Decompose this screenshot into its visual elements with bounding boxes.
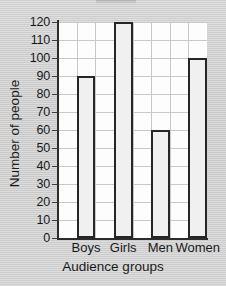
y-axis-tick <box>52 130 58 131</box>
y-axis-tick <box>52 220 58 221</box>
y-axis-tick <box>52 58 58 59</box>
y-axis-tick <box>52 184 58 185</box>
y-axis-tick <box>52 76 58 77</box>
cropped-title-sliver <box>96 0 136 4</box>
y-axis-tick <box>52 238 58 239</box>
y-axis-tick-label: 100 <box>22 52 50 65</box>
y-axis-tick-label: 20 <box>22 196 50 209</box>
bar-chart-figure: 0102030405060708090100110120 Number of p… <box>0 0 226 286</box>
y-axis-tick-label: 10 <box>22 214 50 227</box>
gridline-vertical <box>170 22 171 238</box>
x-axis-tick-label: Women <box>158 241 226 254</box>
y-axis-tick-label: 110 <box>22 34 50 47</box>
y-axis-tick <box>52 112 58 113</box>
gridline-vertical <box>95 22 96 238</box>
x-axis-title: Audience groups <box>0 259 226 274</box>
y-axis-tick-label: 90 <box>22 70 50 83</box>
y-axis-tick-label: 80 <box>22 88 50 101</box>
y-axis-tick <box>52 94 58 95</box>
bar-men <box>151 130 170 238</box>
y-axis-tick-label: 50 <box>22 142 50 155</box>
bar-women <box>188 58 207 238</box>
y-axis-tick-label: 120 <box>22 16 50 29</box>
y-axis-tick-label: 30 <box>22 178 50 191</box>
y-axis-tick-label: 60 <box>22 124 50 137</box>
y-axis-tick <box>52 40 58 41</box>
bar-boys <box>77 76 96 238</box>
y-axis-tick-label: 70 <box>22 106 50 119</box>
plot-area <box>58 22 207 238</box>
y-axis-tick <box>52 22 58 23</box>
y-axis-tick-label: 40 <box>22 160 50 173</box>
y-axis-tick <box>52 202 58 203</box>
y-axis-tick <box>52 148 58 149</box>
bar-girls <box>114 22 133 238</box>
y-axis-title: Number of people <box>7 59 22 209</box>
y-axis-tick <box>52 166 58 167</box>
gridline-vertical <box>133 22 134 238</box>
